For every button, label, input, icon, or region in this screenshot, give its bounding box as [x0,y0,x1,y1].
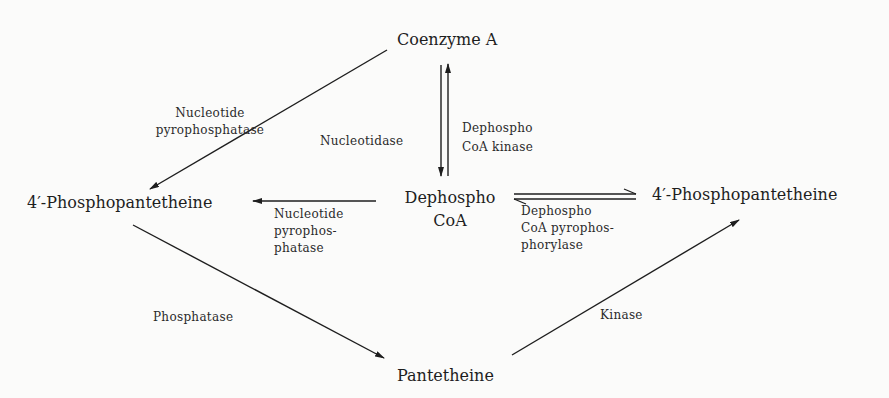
enzyme-kinase: Kinase [600,307,643,324]
enzyme-dephospho-coa-pyrophosphorylase: Dephospho CoA pyrophos- phorylase [521,203,614,254]
node-dephospho-coa: Dephospho CoA [390,188,510,231]
enzyme-label-line: Dephospho [521,203,614,220]
enzyme-label-line: pyrophosphatase [140,122,280,139]
enzyme-nucleotide-pyrophosphatase-mid: Nucleotide pyrophos- phatase [274,206,344,257]
enzyme-label-line: Nucleotide [274,206,344,223]
enzyme-nucleotide-pyrophosphatase-top: Nucleotide pyrophosphatase [140,105,280,139]
arrow-left-phosphopantetheine-to-pantetheine [133,225,384,358]
equilibrium-arrows [514,189,636,204]
node-pantetheine: Pantetheine [397,366,494,386]
enzyme-phosphatase: Phosphatase [153,309,233,326]
enzyme-label-line: Nucleotide [140,105,280,122]
node-phosphopantetheine-left: 4′-Phosphopantetheine [27,193,212,213]
enzyme-nucleotidase: Nucleotidase [320,133,403,150]
enzyme-label-line: Dephospho [462,120,533,137]
enzyme-label-line: phatase [274,240,344,257]
enzyme-label-line: pyrophos- [274,223,344,240]
enzyme-label-line: phorylase [521,237,614,254]
node-dephospho-coa-line1: Dephospho [390,188,510,208]
node-phosphopantetheine-right: 4′-Phosphopantetheine [652,185,837,205]
node-coenzyme-a: Coenzyme A [397,30,497,50]
node-dephospho-coa-line2: CoA [390,211,510,231]
enzyme-label-line: CoA pyrophos- [521,220,614,237]
enzyme-dephospho-coa-kinase: Dephospho CoA kinase [462,120,533,156]
enzyme-label-line: CoA kinase [462,139,533,156]
